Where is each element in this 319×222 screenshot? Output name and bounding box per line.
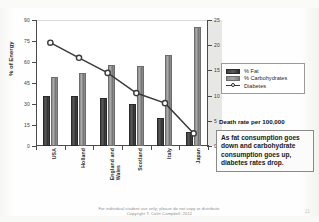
legend-item-carbohydrates: % Carbohydrates — [226, 75, 300, 81]
diabetes-marker — [76, 55, 81, 60]
left-tick-label: 45 — [24, 80, 30, 86]
scan-shade-column — [208, 20, 222, 146]
legend-item-fat: % Fat — [226, 68, 300, 74]
diabetes-marker — [134, 90, 139, 95]
legend-item-diabetes: Diabetes — [226, 83, 300, 89]
left-tick-label: 60 — [24, 59, 30, 65]
x-axis-label: Scotland — [138, 148, 144, 171]
diabetes-marker — [105, 70, 110, 75]
footer: For individual student use only; please … — [0, 206, 319, 216]
right-tick-label: 15 — [214, 67, 220, 73]
right-tick-label: 20 — [214, 42, 220, 48]
footer-line-2: Copyright T. Colin Campbell, 2012 — [0, 211, 319, 216]
scan-edge-top — [0, 0, 319, 8]
callout-box: As fat consumption goes down and carbohy… — [216, 130, 314, 172]
right-tick-label: 10 — [214, 93, 220, 99]
page-number: 11 — [305, 208, 310, 214]
diabetes-marker — [162, 101, 167, 106]
diabetes-marker — [48, 40, 53, 45]
diabetes-line-series — [36, 20, 208, 146]
scan-edge-bottom — [0, 216, 319, 222]
legend-label-diabetes: Diabetes — [244, 83, 266, 89]
x-axis-labels: USAHollandEngland and WalesScotlandItaly… — [36, 148, 208, 188]
x-axis-label: Italy — [167, 148, 173, 159]
left-tick-label: 75 — [24, 38, 30, 44]
death-rate-note: Death rate per 100,000 — [219, 118, 285, 125]
x-tick — [208, 145, 209, 150]
diabetes-polyline — [50, 43, 193, 134]
x-axis-label: Holland — [81, 148, 87, 168]
right-tick-label: 5 — [214, 118, 217, 124]
left-tick-label: 15 — [24, 122, 30, 128]
right-tick-label: 25 — [214, 17, 220, 23]
callout-text: As fat consumption goes down and carbohy… — [221, 134, 309, 168]
diabetes-marker — [191, 131, 196, 136]
left-tick-label: 30 — [24, 101, 30, 107]
x-axis-label: England and Wales — [110, 148, 121, 180]
fat-swatch-icon — [226, 69, 240, 74]
chart-legend: % Fat % Carbohydrates Diabetes — [221, 63, 305, 94]
legend-label-carbohydrates: % Carbohydrates — [244, 75, 287, 81]
line-marker-icon — [226, 83, 240, 88]
x-axis-label: Japan — [196, 148, 202, 164]
left-tick-label: 0 — [27, 143, 30, 149]
left-tick-label: 90 — [24, 17, 30, 23]
chart-plot-area: 0153045607590 0510152025 — [36, 20, 208, 146]
carb-swatch-icon — [226, 76, 240, 81]
x-axis-label: USA — [52, 148, 58, 159]
legend-label-fat: % Fat — [244, 68, 259, 74]
y-axis-title: % of Energy — [8, 41, 14, 76]
